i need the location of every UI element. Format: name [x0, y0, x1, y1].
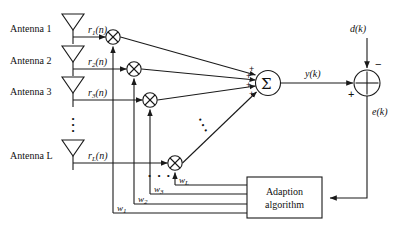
weight-label-L: wL	[179, 176, 189, 187]
error-adder-minus-sign: −	[375, 58, 381, 70]
summation-symbol: Σ	[261, 75, 272, 93]
error-adder-plus-sign: +	[348, 88, 354, 100]
weight-horizontal-ellipsis: • • •	[148, 171, 172, 181]
figure-canvas: Antenna 1 Antenna 2 Antenna 3 Antenna L …	[0, 0, 394, 241]
antenna-2-label: Antenna 2	[10, 56, 51, 66]
signal-label-3: r3(n)	[88, 88, 107, 100]
antenna-vertical-ellipsis: •••	[66, 116, 80, 134]
multiplier-L	[168, 156, 182, 170]
weight-label-2: w2	[138, 195, 148, 206]
summation-input-sign-L: +	[249, 89, 254, 99]
signal-label-L: rL(n)	[88, 151, 107, 163]
antenna-3-label: Antenna 3	[10, 87, 51, 97]
antenna-1-label: Antenna 1	[10, 24, 51, 34]
error-adder-node	[354, 70, 380, 96]
adaption-algorithm-line-2: algorithm	[247, 199, 322, 212]
antenna-L-symbol	[62, 140, 84, 170]
signal-label-2: r2(n)	[88, 57, 107, 69]
antenna-2-symbol	[62, 46, 84, 76]
desired-signal-label: d(k)	[350, 24, 366, 34]
antenna-L-label: Antenna L	[10, 151, 53, 161]
error-feedback-line	[330, 96, 367, 198]
multiplier-3	[143, 93, 157, 107]
antenna-1-symbol	[62, 14, 84, 44]
multiplier-2	[127, 62, 141, 76]
signal-label-1: r1(n)	[88, 25, 107, 37]
weight-label-3: w3	[154, 185, 164, 196]
antenna-3-symbol	[62, 77, 84, 107]
output-signal-label: y(k)	[305, 69, 321, 79]
multiplier-1	[106, 30, 120, 44]
error-signal-label: e(k)	[372, 107, 388, 117]
sum-input-3	[158, 86, 256, 100]
adaption-algorithm-line-1: Adaption	[247, 186, 322, 199]
weight-label-1: w1	[117, 204, 127, 215]
sum-input-L	[183, 92, 257, 163]
adaption-algorithm-label: Adaption algorithm	[247, 186, 322, 211]
